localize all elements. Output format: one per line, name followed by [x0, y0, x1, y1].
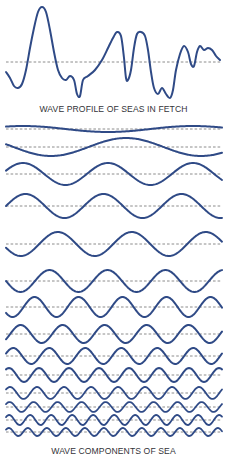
wave-component-row: [6, 387, 222, 399]
wave-component-row: [6, 415, 222, 425]
wave-component-row: [6, 297, 222, 317]
wave-diagram: [0, 0, 227, 460]
wave-components-graphic: [6, 126, 222, 436]
wave-component-row: [6, 126, 222, 132]
wave-component-row: [6, 402, 222, 412]
wave-component-line: [6, 232, 222, 256]
wave-components-caption: WAVE COMPONENTS OF SEA: [0, 446, 227, 456]
wave-component-row: [6, 270, 222, 292]
wave-profile-graphic: [6, 7, 222, 98]
wave-component-row: [6, 428, 222, 436]
wave-component-row: [6, 138, 222, 156]
wave-profile-caption: WAVE PROFILE OF SEAS IN FETCH: [0, 104, 227, 114]
wave-component-row: [6, 163, 222, 185]
wave-component-row: [6, 368, 222, 382]
wave-component-row: [6, 325, 222, 343]
wave-component-row: [6, 194, 222, 218]
wave-component-row: [6, 348, 222, 364]
wave-profile-line: [6, 7, 220, 98]
wave-component-row: [6, 232, 222, 256]
